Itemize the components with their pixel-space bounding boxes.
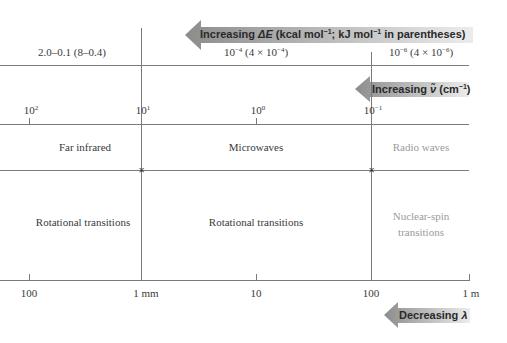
- wavelength-tick-label: 100: [21, 287, 38, 299]
- wavenumber-tick: [29, 118, 30, 124]
- wavenumber-axis-line: [0, 124, 469, 125]
- wavelength-arrow-label: Decreasing λ: [399, 309, 468, 321]
- region-microwaves: Microwaves: [229, 141, 283, 153]
- wavelength-tick-label: 100: [363, 287, 380, 299]
- intersection-mark-icon: ✕: [368, 167, 375, 175]
- wavelength-tick: [256, 274, 257, 280]
- wavenumber-tick-label: 10−1: [364, 104, 382, 116]
- wavelength-tick-label: 1 m: [463, 287, 480, 299]
- region-far-infrared: Far infrared: [59, 141, 111, 153]
- wavenumber-tick-label: 100: [251, 104, 266, 116]
- energy-row-bottom-line: [0, 65, 469, 66]
- wavenumber-tick: [256, 118, 257, 124]
- transition-far-infrared: Rotational transitions: [36, 216, 130, 228]
- region-row-bottom-line: [0, 170, 469, 171]
- energy-radio-waves: 10−6 (4 × 10−6): [389, 46, 453, 58]
- wavelength-tick: [469, 274, 470, 281]
- wavelength-axis-line: [0, 280, 469, 281]
- energy-arrow-label: Increasing ΔE (kcal mol−1; kJ mol−1 in p…: [200, 28, 465, 40]
- wavelength-tick-label: 1 mm: [133, 287, 158, 299]
- energy-microwaves: 10−4 (4 × 10−4): [224, 46, 288, 58]
- transition-microwaves: Rotational transitions: [209, 216, 303, 228]
- region-radio-waves: Radio waves: [393, 141, 450, 153]
- energy-far-infrared: 2.0–0.1 (8–0.4): [38, 46, 106, 58]
- wavelength-tick: [29, 274, 30, 280]
- wavelength-tick-label: 10: [251, 287, 262, 299]
- intersection-mark-icon: ✕: [138, 167, 145, 175]
- wavenumber-tick-label: 102: [24, 104, 39, 116]
- wavenumber-arrow-label: Increasing ν̃ (cm−1): [372, 83, 470, 95]
- wavenumber-tick-label: 101: [136, 104, 151, 116]
- transition-radio-waves: Nuclear-spintransitions: [393, 208, 450, 240]
